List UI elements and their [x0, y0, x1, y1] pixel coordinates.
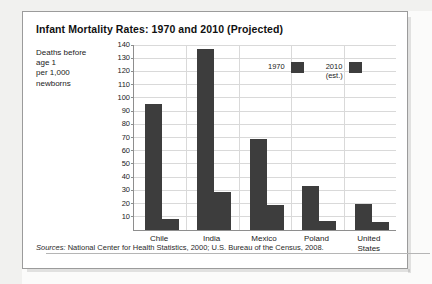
source-note-label: Sources: — [36, 243, 66, 252]
source-note: Sources: National Center for Health Stat… — [36, 243, 324, 252]
y-axis-tick-labels: 102030405060708090100110120130140 — [108, 45, 130, 231]
y-axis-tick-label: 30 — [122, 186, 130, 194]
figure-frame: Infant Mortality Rates: 1970 and 2010 (P… — [22, 11, 408, 269]
gridline-horizontal — [134, 124, 396, 125]
source-divider — [46, 253, 430, 254]
gridline-vertical — [239, 45, 240, 230]
y-axis-tickmark — [131, 58, 134, 59]
gridline-vertical — [186, 45, 187, 230]
y-axis-tick-label: 40 — [122, 173, 130, 181]
y-axis-tick-label: 50 — [122, 160, 130, 168]
bar-india-1970 — [197, 49, 214, 230]
chart-title: Infant Mortality Rates: 1970 and 2010 (P… — [36, 23, 283, 35]
y-axis-tickmark — [131, 84, 134, 85]
gridline-horizontal — [134, 111, 396, 112]
y-axis-tick-label: 110 — [118, 81, 130, 89]
y-axis-tickmark — [131, 71, 134, 72]
bar-chile-1970 — [145, 104, 162, 230]
bar-poland-2010est — [319, 221, 336, 230]
legend-label: 2010(est.) — [326, 62, 343, 81]
y-axis-tickmark — [131, 177, 134, 178]
y-axis-tick-label: 130 — [117, 54, 130, 62]
y-axis-caption: Deaths before age 1 per 1,000 newborns — [36, 48, 108, 89]
page-canvas: Infant Mortality Rates: 1970 and 2010 (P… — [0, 0, 432, 284]
y-axis-tickmark — [131, 124, 134, 125]
y-axis-tickmark — [131, 137, 134, 138]
y-axis-tickmark — [131, 190, 134, 191]
page-shadow-right — [408, 17, 411, 273]
bar-united-states-1970 — [355, 204, 372, 230]
y-axis-tick-label: 140 — [117, 41, 130, 49]
bar-mexico-1970 — [250, 139, 267, 230]
y-axis-tickmark — [131, 97, 134, 98]
gridline-horizontal — [134, 58, 396, 59]
y-axis-tick-label: 80 — [122, 120, 130, 128]
gridline-horizontal — [134, 97, 396, 98]
bar-united-states-2010est — [372, 222, 389, 230]
y-axis-tick-label: 100 — [117, 94, 130, 102]
gridline-horizontal — [134, 45, 396, 46]
y-axis-tick-label: 20 — [122, 200, 130, 208]
y-axis-caption-line-1: Deaths before — [36, 48, 108, 58]
y-axis-caption-line-2: age 1 — [36, 58, 108, 68]
y-axis-tick-label: 60 — [122, 147, 130, 155]
legend-entry: 1970 — [268, 62, 304, 73]
y-axis-tickmark — [131, 111, 134, 112]
x-axis-label-united-states: UnitedStates — [343, 234, 395, 253]
page-margin-left — [0, 0, 22, 284]
y-axis-caption-line-3: per 1,000 — [36, 68, 108, 78]
y-axis-caption-line-4: newborns — [36, 79, 108, 89]
legend-swatch — [349, 62, 362, 73]
page-margin-top — [0, 0, 432, 11]
bar-poland-1970 — [302, 186, 319, 230]
bar-mexico-2010est — [267, 205, 284, 230]
y-axis-tickmark — [131, 163, 134, 164]
legend-swatch — [291, 62, 304, 73]
y-axis-tickmark — [131, 203, 134, 204]
source-note-text: National Center for Health Statistics, 2… — [66, 243, 324, 252]
y-axis-tickmark — [131, 216, 134, 217]
y-axis-tick-label: 70 — [122, 134, 130, 142]
legend-label: 1970 — [268, 62, 285, 71]
bar-india-2010est — [214, 192, 231, 230]
gridline-horizontal — [134, 84, 396, 85]
y-axis-tick-label: 120 — [117, 67, 130, 75]
y-axis-tick-label: 10 — [122, 213, 130, 221]
chart-legend: 19702010(est.) — [268, 62, 362, 81]
page-shadow-bottom — [27, 269, 410, 272]
y-axis-tickmark — [131, 45, 134, 46]
y-axis-tickmark — [131, 150, 134, 151]
legend-entry: 2010(est.) — [326, 62, 362, 81]
y-axis-tick-label: 90 — [122, 107, 130, 115]
bar-chile-2010est — [162, 219, 179, 230]
plot-wrapper: 102030405060708090100110120130140 197020… — [108, 45, 396, 231]
